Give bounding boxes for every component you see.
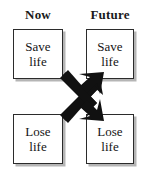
node-label-line-2: life xyxy=(29,54,46,69)
node-label-line-2: life xyxy=(29,139,46,154)
node-label-line-2: life xyxy=(101,139,118,154)
node-box-now-save-life: Save life xyxy=(13,29,63,79)
node-label-line-1: Save xyxy=(25,39,50,54)
column-header-now: Now xyxy=(12,8,64,22)
node-label-line-1: Lose xyxy=(25,124,50,139)
decision-matrix-diagram: Now Future Save life Save life Lose life… xyxy=(0,0,147,178)
column-header-future: Future xyxy=(82,8,138,22)
node-label-line-1: Save xyxy=(97,39,122,54)
node-box-future-lose-life: Lose life xyxy=(86,114,134,164)
arrow-shafts xyxy=(63,75,95,118)
node-box-now-lose-life: Lose life xyxy=(13,114,63,164)
node-label-line-1: Lose xyxy=(97,124,122,139)
node-label-line-2: life xyxy=(101,54,118,69)
node-box-future-save-life: Save life xyxy=(86,29,134,79)
